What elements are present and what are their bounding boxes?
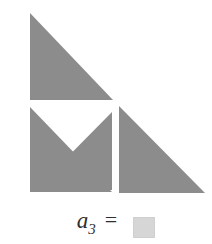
figure-stage: [0, 0, 212, 200]
formula-row: a3 =: [0, 200, 212, 244]
answer-input[interactable]: [133, 217, 155, 238]
equals-sign: =: [105, 209, 117, 231]
sequence-index-subscript: 3: [88, 222, 96, 237]
sequence-variable-label: a: [77, 209, 89, 232]
geometric-figure: [0, 0, 212, 200]
